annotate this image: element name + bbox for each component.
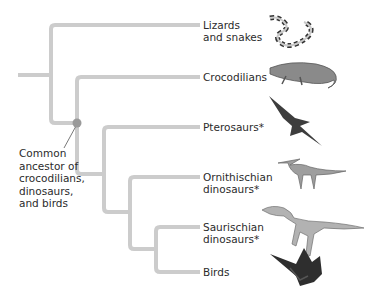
taxon-label-ornithischian: Ornithischian dinosaurs* [203,171,273,195]
bird-icon [270,248,322,286]
taxon-label-birds: Birds [203,266,229,278]
common-ancestor-annotation: Common ancestor of crocodilians, dinosau… [19,147,85,210]
pterosaur-icon [269,96,322,146]
taxon-label-saurischian: Saurischian dinosaurs* [203,221,264,245]
taxon-label-crocodilians: Crocodilians [203,71,267,83]
crocodile-icon [270,63,336,88]
common-ancestor-node [73,119,82,128]
saurischian-dinosaur-icon [262,206,364,256]
ornithischian-dinosaur-icon [278,159,346,189]
annotation-pointer [64,126,76,148]
taxon-label-pterosaurs: Pterosaurs* [203,121,264,133]
snake-icon [270,18,311,46]
taxon-label-lizards-snakes: Lizards and snakes [203,19,262,43]
